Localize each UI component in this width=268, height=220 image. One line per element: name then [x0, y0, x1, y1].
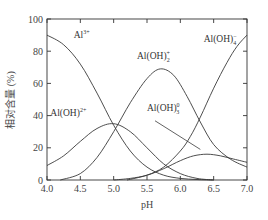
- x-tick-label: 5.0: [107, 183, 120, 194]
- x-tick-label: 6.5: [207, 183, 220, 194]
- x-tick-label: 7.0: [241, 183, 254, 194]
- x-tick-label: 5.5: [141, 183, 154, 194]
- species-label-2: Al(OH)+2: [137, 50, 171, 63]
- x-tick-label: 6.0: [174, 183, 187, 194]
- species-label-1: Al(OH)2+: [50, 107, 87, 119]
- species-label-0: Al3+: [74, 29, 91, 40]
- speciation-chart: 相对含量 (%) pH 4.04.55.05.56.06.57.00204060…: [0, 0, 268, 220]
- species-labels: Al3+Al(OH)2+Al(OH)+2Al(OH)03Al(OH)−4: [50, 29, 237, 149]
- y-axis-label: 相对含量 (%): [4, 71, 17, 129]
- y-tick-label: 60: [33, 78, 43, 89]
- x-axis-title: pH: [141, 199, 153, 210]
- curve-series-1: [47, 124, 214, 180]
- species-label-4: Al(OH)−4: [204, 33, 238, 46]
- y-tick-label: 20: [33, 142, 43, 153]
- species-label-3: Al(OH)03: [147, 102, 180, 115]
- y-axis-title: 相对含量 (%): [4, 71, 17, 129]
- y-tick-label: 80: [33, 46, 43, 57]
- y-tick-label: 100: [28, 14, 43, 25]
- y-tick-label: 0: [38, 175, 43, 186]
- y-tick-label: 40: [33, 110, 43, 121]
- leader-line: [155, 121, 200, 150]
- curve-series-2: [60, 69, 247, 180]
- x-tick-label: 4.5: [74, 183, 87, 194]
